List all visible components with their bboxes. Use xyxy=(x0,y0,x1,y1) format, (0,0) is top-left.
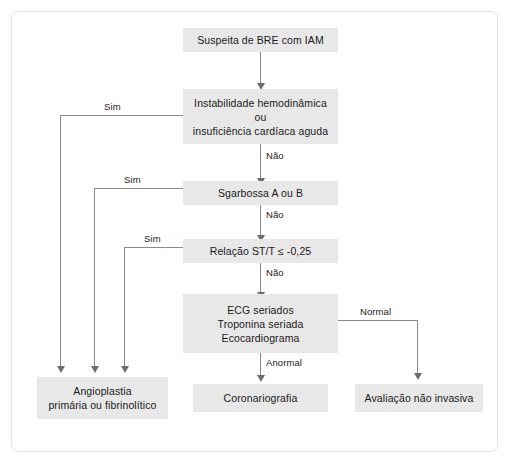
edge-label-normal: Normal xyxy=(360,306,391,318)
flowchart-canvas: Não Não Não Anormal Sim Sim Sim Normal S… xyxy=(0,0,511,462)
node-label-line: primária ou fibrinolítico xyxy=(48,398,156,412)
edge-sim1-vertical xyxy=(60,115,61,368)
node-label-line: Suspeita de BRE com IAM xyxy=(197,33,324,47)
edge-label-nao-2: Não xyxy=(266,209,284,221)
node-label-line: Avaliação não invasiva xyxy=(365,391,474,405)
edge-normal-vertical xyxy=(417,320,418,375)
edge-relacao-to-seriados xyxy=(260,263,261,294)
edge-label-sim-3: Sim xyxy=(144,233,161,245)
edge-label-sim-2: Sim xyxy=(124,174,141,186)
edge-normal-horizontal xyxy=(338,320,418,321)
node-label-line: Angioplastia xyxy=(73,384,131,398)
arrowhead-sim2-to-angioplastia xyxy=(91,366,99,373)
edge-sim3-horizontal xyxy=(124,247,184,248)
node-label-line: Sgarbossa A ou B xyxy=(218,186,303,200)
edge-label-nao-1: Não xyxy=(266,150,284,162)
node-label-line: Coronariografia xyxy=(224,391,298,405)
node-relacao-st-t[interactable]: Relação ST/T ≤ -0,25 xyxy=(183,239,338,263)
node-label-line: ECG seriados xyxy=(227,303,294,317)
arrowhead-seriados-to-coronariografia xyxy=(257,375,265,382)
node-sgarbossa-a-ou-b[interactable]: Sgarbossa A ou B xyxy=(183,181,338,205)
edge-instabilidade-to-sgarbossa xyxy=(260,144,261,180)
node-avaliacao-nao-invasiva[interactable]: Avaliação não invasiva xyxy=(355,384,483,412)
node-label-line: Instabilidade hemodinâmica xyxy=(194,96,327,110)
edge-sgarbossa-to-relacao xyxy=(260,205,261,237)
node-label-line: Ecocardiograma xyxy=(222,331,300,345)
edge-sim3-vertical xyxy=(124,247,125,368)
edge-start-to-instabilidade xyxy=(260,52,261,85)
node-coronariografia[interactable]: Coronariografia xyxy=(193,384,328,412)
arrowhead-sim3-to-angioplastia xyxy=(121,366,129,373)
node-label-line: ou xyxy=(255,110,267,124)
edge-sim2-vertical xyxy=(94,188,95,368)
arrowhead-normal-to-avaliacao xyxy=(414,373,422,380)
node-label-line: Troponina seriada xyxy=(218,317,304,331)
node-label-line: insuficiência cardíaca aguda xyxy=(193,124,328,138)
arrowhead-sim1-to-angioplastia xyxy=(57,366,65,373)
node-suspeita-bre-iam[interactable]: Suspeita de BRE com IAM xyxy=(183,28,338,52)
node-angioplastia-primaria[interactable]: Angioplastia primária ou fibrinolítico xyxy=(37,377,168,419)
edge-label-nao-3: Não xyxy=(266,267,284,279)
node-label-line: Relação ST/T ≤ -0,25 xyxy=(210,244,312,258)
edge-label-sim-1: Sim xyxy=(104,101,121,113)
edge-sim1-horizontal xyxy=(60,115,184,116)
node-instabilidade-hemodinamica[interactable]: Instabilidade hemodinâmica ou insuficiên… xyxy=(183,89,338,144)
edge-sim2-horizontal xyxy=(94,188,184,189)
node-ecg-seriados[interactable]: ECG seriados Troponina seriada Ecocardio… xyxy=(183,294,338,353)
edge-label-anormal: Anormal xyxy=(266,357,302,369)
